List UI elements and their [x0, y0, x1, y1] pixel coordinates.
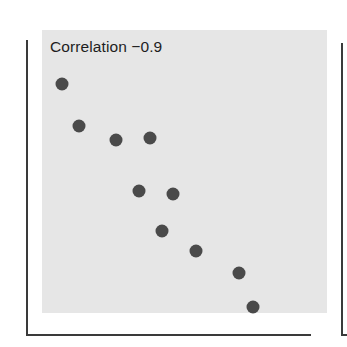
data-point: [232, 267, 245, 280]
data-point: [189, 244, 202, 257]
data-point: [144, 131, 157, 144]
data-point: [132, 185, 145, 198]
data-point: [73, 120, 86, 133]
right-frame-line: [341, 43, 343, 336]
correlation-annotation: Correlation −0.9: [50, 38, 162, 56]
plot-panel: [42, 30, 327, 313]
y-axis-line: [26, 40, 28, 336]
data-point: [110, 134, 123, 147]
data-point: [246, 301, 259, 314]
data-point: [167, 188, 180, 201]
x-axis-line: [26, 334, 311, 336]
right-frame-corner: [341, 334, 347, 336]
data-point: [155, 224, 168, 237]
data-point: [55, 77, 68, 90]
